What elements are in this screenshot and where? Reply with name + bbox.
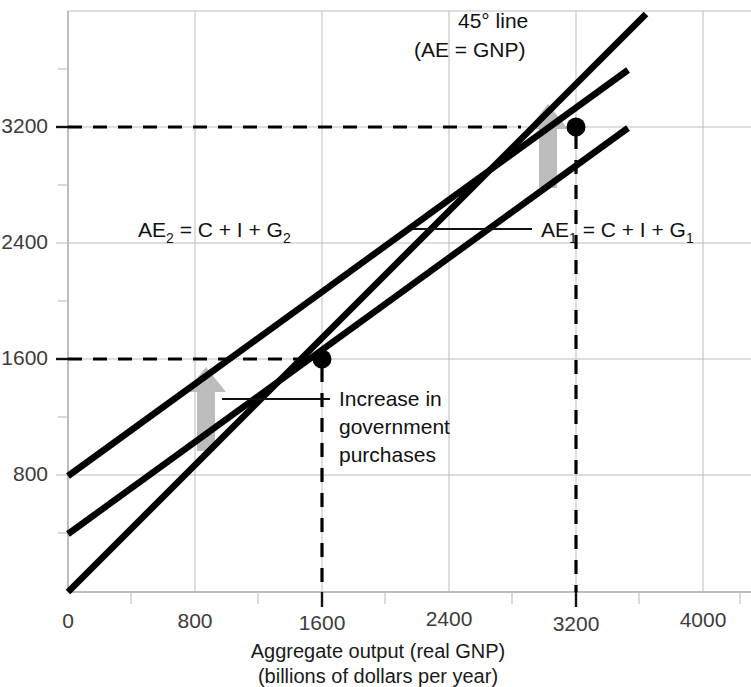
label-ae1-rest: = C + I + G xyxy=(577,218,686,241)
x-tick-labels: 0 800 1600 2400 3200 4000 xyxy=(62,607,726,635)
y-minor-ticks xyxy=(58,69,68,533)
equilibrium-point-new xyxy=(567,118,586,137)
x-tick-label-800: 800 xyxy=(177,609,212,632)
label-ae1-rest-subscript: 1 xyxy=(686,230,694,246)
label-ae1: AE1 = C + I + G1 xyxy=(541,218,694,246)
x-tick-label-2400: 2400 xyxy=(426,607,473,630)
y-tick-label-2400: 2400 xyxy=(1,230,48,253)
y-tick-label-1600: 1600 xyxy=(1,346,48,369)
x-tick-label-0: 0 xyxy=(62,609,74,632)
label-45-degree-line: 45° line (AE = GNP) xyxy=(414,9,528,61)
label-ae2-subscript: 2 xyxy=(166,230,174,246)
x-minor-ticks xyxy=(131,592,740,604)
y-tick-labels: 3200 2400 1600 800 xyxy=(1,114,48,485)
label-ae2-rest-subscript: 2 xyxy=(283,230,291,246)
label-ae2-prefix: AE xyxy=(138,218,166,241)
label-ae1-prefix: AE xyxy=(541,218,569,241)
annotation-line-2: government xyxy=(339,415,450,438)
x-major-ticks xyxy=(322,592,576,607)
figure-container: 3200 2400 1600 800 0 800 1600 2400 3200 … xyxy=(0,0,751,687)
x-axis-subtitle: (billions of dollars per year) xyxy=(258,665,498,687)
line-ae1 xyxy=(68,128,628,534)
svg-text:AE2 = C + I + G2: AE2 = C + I + G2 xyxy=(138,218,291,246)
label-45-degree-line-line1: 45° line xyxy=(458,9,528,32)
x-axis-title: Aggregate output (real GNP) xyxy=(251,640,506,662)
label-ae2-rest: = C + I + G xyxy=(174,218,283,241)
x-tick-label-1600: 1600 xyxy=(299,611,346,634)
y-tick-label-3200: 3200 xyxy=(1,114,48,137)
grid-horizontal xyxy=(68,11,751,592)
y-tick-label-800: 800 xyxy=(13,462,48,485)
annotation-line-1: Increase in xyxy=(339,387,442,410)
label-ae2: AE2 = C + I + G2 xyxy=(138,218,291,246)
x-tick-label-3200: 3200 xyxy=(553,612,600,635)
annotation-line-3: purchases xyxy=(339,443,436,466)
annotation-increase-in-government-purchases: Increase in government purchases xyxy=(339,387,450,466)
chart-svg: 3200 2400 1600 800 0 800 1600 2400 3200 … xyxy=(0,0,751,687)
line-45-degree xyxy=(68,14,646,592)
label-45-degree-line-line2: (AE = GNP) xyxy=(414,38,525,61)
equilibrium-point-initial xyxy=(313,350,332,369)
label-ae1-subscript: 1 xyxy=(569,230,577,246)
axis-spines xyxy=(68,11,751,592)
x-tick-label-4000: 4000 xyxy=(680,608,727,631)
svg-text:AE1 = C + I + G1: AE1 = C + I + G1 xyxy=(541,218,694,246)
